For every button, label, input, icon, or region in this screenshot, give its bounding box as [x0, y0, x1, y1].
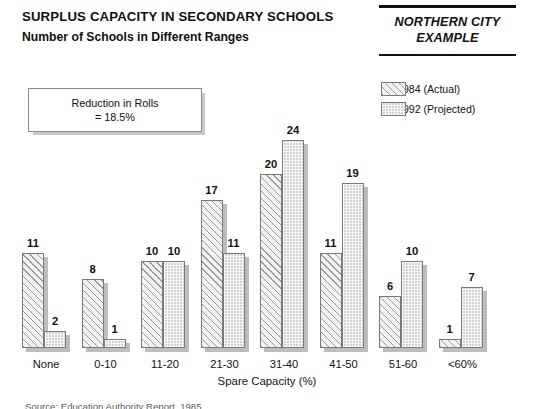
bar-value-label: 17 — [195, 184, 229, 196]
bar-010-1984[interactable] — [82, 279, 104, 348]
bar-2130-1992[interactable] — [223, 253, 245, 348]
bar-value-label: 11 — [217, 237, 251, 249]
bar-010-1992[interactable] — [104, 339, 126, 348]
x-tick-label-None: None — [16, 358, 76, 370]
bar-value-label: 10 — [395, 245, 429, 257]
bar-None-1984[interactable] — [22, 253, 44, 348]
bar-value-label: 24 — [276, 124, 310, 136]
bar-4150-1992[interactable] — [342, 183, 364, 348]
bar-None-1992[interactable] — [44, 331, 66, 348]
x-tick-label-2130: 21-30 — [195, 358, 255, 370]
source-note: Source: Education Authority Report, 1985 — [25, 401, 202, 409]
x-tick-label-4150: 41-50 — [314, 358, 374, 370]
x-tick-label-010: 0-10 — [76, 358, 136, 370]
bar-60-1992[interactable] — [461, 287, 483, 348]
bar-1120-1984[interactable] — [141, 261, 163, 348]
bar-2130-1984[interactable] — [201, 200, 223, 348]
bar-value-label: 2 — [38, 315, 72, 327]
bar-5160-1984[interactable] — [379, 296, 401, 348]
x-tick-label-5160: 51-60 — [373, 358, 433, 370]
bar-value-label: 1 — [98, 323, 132, 335]
bar-5160-1992[interactable] — [401, 261, 423, 348]
bar-value-label: 8 — [76, 263, 110, 275]
bar-3140-1984[interactable] — [260, 174, 282, 348]
bar-value-label: 10 — [157, 245, 191, 257]
x-tick-label-60: <60% — [433, 358, 493, 370]
bar-3140-1992[interactable] — [282, 140, 304, 348]
x-tick-label-3140: 31-40 — [254, 358, 314, 370]
bar-60-1984[interactable] — [439, 339, 461, 348]
bar-4150-1984[interactable] — [320, 253, 342, 348]
bar-value-label: 7 — [455, 271, 489, 283]
x-tick-label-1120: 11-20 — [135, 358, 195, 370]
bar-chart-plot: 112None810-10101011-20171121-30202431-40… — [0, 0, 534, 409]
bar-value-label: 11 — [16, 237, 50, 249]
x-axis-title: Spare Capacity (%) — [0, 375, 534, 387]
bar-1120-1992[interactable] — [163, 261, 185, 348]
bar-value-label: 19 — [336, 167, 370, 179]
